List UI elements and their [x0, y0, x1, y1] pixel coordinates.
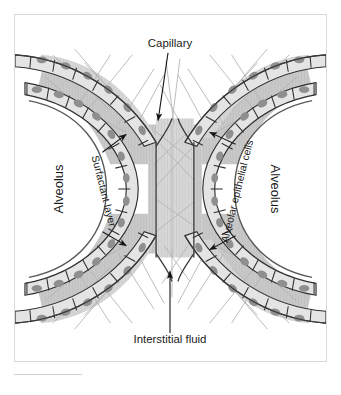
- label-capillary: Capillary: [148, 37, 193, 49]
- label-alveolus-left: Alveolus: [51, 165, 66, 214]
- figure-frame: Capillary Interstitial fluid Alveolus Al…: [14, 14, 327, 362]
- label-interstitial-fluid: Interstitial fluid: [134, 333, 207, 345]
- alveolar-capillary-diagram: Capillary Interstitial fluid Alveolus Al…: [15, 15, 326, 361]
- caption-rule: [14, 374, 82, 375]
- label-alveolus-right: Alveolus: [268, 165, 283, 214]
